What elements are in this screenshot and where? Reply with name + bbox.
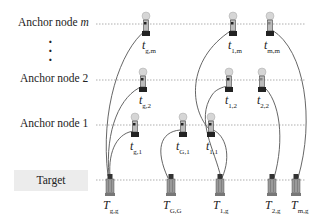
label-t_1_1: t1,1 xyxy=(206,139,218,156)
label-T_G_G: TG,G xyxy=(163,198,182,215)
label-t_1_2: t1,2 xyxy=(225,93,237,110)
link-Tgg-tg2 xyxy=(108,86,143,176)
ellipsis-vertical: ··· xyxy=(48,38,53,65)
target-device-T_2_g xyxy=(267,174,277,196)
label-t_m_m: tm,m xyxy=(264,38,280,55)
anchor-device-t_g_2 xyxy=(139,68,147,92)
label-t_2_2: t2,2 xyxy=(257,93,269,110)
anchor-devices xyxy=(131,12,274,137)
label-T_m_g: Tm,g xyxy=(291,198,308,215)
row-label-anchor-1: Anchor node 1 xyxy=(20,117,88,129)
label-T_2_g: T2,g xyxy=(265,198,280,215)
anchor-device-t_2_2 xyxy=(258,68,266,92)
label-t_g_1: tg,1 xyxy=(130,139,142,156)
row-label-target: Target xyxy=(14,170,88,191)
anchor-device-t_g_m xyxy=(142,12,150,36)
row-label-anchor-2: Anchor node 2 xyxy=(20,72,88,84)
label-t_1_m: t1,m xyxy=(228,38,242,55)
label-t_G_1: tG,1 xyxy=(176,139,190,156)
row-label-target-box: Target xyxy=(14,170,88,191)
target-device-T_m_g xyxy=(291,174,301,196)
label-t_g_2: tg,2 xyxy=(139,93,151,110)
label-T_1_g: T1,g xyxy=(213,198,228,215)
target-devices xyxy=(105,174,301,196)
row-label-anchor-m: Anchor node m xyxy=(18,16,89,28)
target-device-T_1_g xyxy=(215,174,225,196)
label-t_g_m: tg,m xyxy=(142,38,156,55)
anchor-device-t_1_m xyxy=(229,12,237,36)
label-T_g_g: Tg,g xyxy=(103,198,118,215)
anchor-device-t_m_m xyxy=(266,12,274,36)
target-device-T_g_g xyxy=(105,174,115,196)
diagram-canvas: Anchor node m ··· Anchor node 2 Anchor n… xyxy=(0,0,327,217)
